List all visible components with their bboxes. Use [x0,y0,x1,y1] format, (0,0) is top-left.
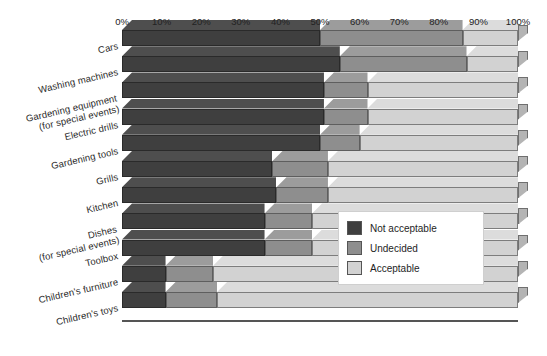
chart-legend: Not acceptable Undecided Acceptable [338,211,484,285]
bar-segment-undecided [324,82,368,98]
bar-segment-not-acceptable [122,213,265,229]
bar-end-cap [518,287,528,303]
bar-segment-not-acceptable [122,82,324,98]
bar-segment-top-face [122,125,320,135]
bar-row [122,161,518,177]
category-label-line1: Cars [97,40,119,55]
bar-end-cap [518,130,528,146]
category-label-line1: Gardening tools [50,145,119,171]
x-axis-line [122,320,518,322]
legend-item: Acceptable [347,258,475,278]
bar-segment-acceptable [328,161,518,177]
bar-end-cap [518,25,528,41]
category-label-line1: Children's furniture [37,276,119,305]
bar-end-cap [518,208,528,224]
bar-end-cap [518,156,528,172]
bar-segment-not-acceptable [122,109,324,125]
legend-swatch-not-acceptable [347,221,362,235]
legend-item: Not acceptable [347,218,475,238]
bar-row [122,82,518,98]
bar-segment-top-face [265,203,313,213]
bar-segment-undecided [265,240,313,256]
x-tick-label: 50% [310,16,329,27]
bar-segment-top-face [324,99,368,109]
x-tick-label: 100% [506,16,530,27]
legend-label-acceptable: Acceptable [370,263,419,274]
bar-segment-acceptable [463,30,518,46]
bar-segment-acceptable [328,187,518,203]
bar-row [122,56,518,72]
bar-segment-top-face [324,72,368,82]
x-tick-label: 0% [115,16,129,27]
bar-segment-undecided [324,109,368,125]
bar-row [122,109,518,125]
bar-segment-undecided [320,135,360,151]
bar-end-cap [518,235,528,251]
category-label-line1: Toolbox [84,250,119,268]
bar-segment-top-face [122,99,324,109]
legend-label-undecided: Undecided [370,243,418,254]
bar-row [122,187,518,203]
x-tick-label: 80% [429,16,448,27]
bar-segment-undecided [166,292,217,308]
bar-segment-top-face [122,203,265,213]
x-tick-label: 40% [271,16,290,27]
bar-segment-not-acceptable [122,161,272,177]
category-label-line1: Grills [95,171,119,187]
bar-segment-top-face [328,151,518,161]
bar-segment-top-face [166,256,214,266]
bar-segment-acceptable [360,135,518,151]
bar-segment-top-face [265,230,313,240]
x-tick-label: 10% [152,16,171,27]
bar-segment-top-face [272,151,327,161]
x-tick-label: 60% [350,16,369,27]
bar-end-cap [518,182,528,198]
legend-item: Undecided [347,238,475,258]
bar-segment-acceptable [368,109,518,125]
category-label-line1: Kitchen [85,197,119,215]
bar-row [122,135,518,151]
bar-segment-top-face [122,282,166,292]
x-tick-label: 70% [390,16,409,27]
bar-end-cap [518,261,528,277]
bar-segment-top-face [122,46,340,56]
bar-segment-undecided [265,213,313,229]
x-tick-label: 20% [192,16,211,27]
bar-segment-acceptable [217,292,518,308]
bar-segment-top-face [368,72,518,82]
legend-swatch-acceptable [347,261,362,275]
bar-row [122,292,518,308]
bar-segment-not-acceptable [122,56,340,72]
bar-segment-top-face [122,230,265,240]
bar-segment-not-acceptable [122,30,320,46]
bar-segment-top-face [320,125,360,135]
legend-swatch-undecided [347,241,362,255]
bar-segment-top-face [166,282,217,292]
category-label-line1: Washing machines [37,66,119,95]
bar-segment-top-face [360,125,518,135]
x-tick-label: 30% [231,16,250,27]
bar-segment-top-face [122,256,166,266]
bar-segment-not-acceptable [122,135,320,151]
category-label-line1: Children's toys [55,302,119,327]
bar-segment-acceptable [467,56,518,72]
bar-end-cap [518,51,528,67]
bar-segment-top-face [368,99,518,109]
bar-segment-top-face [122,72,324,82]
bar-end-cap [518,104,528,120]
bar-segment-top-face [122,177,276,187]
bar-segment-top-face [340,46,467,56]
legend-label-not-acceptable: Not acceptable [370,223,437,234]
bar-segment-top-face [122,151,272,161]
bar-segment-not-acceptable [122,240,265,256]
bar-segment-undecided [166,266,214,282]
bar-segment-acceptable [368,82,518,98]
bar-row [122,30,518,46]
x-tick-label: 90% [469,16,488,27]
bar-segment-not-acceptable [122,187,276,203]
stacked-bar-chart: CarsWashing machinesGardening equipment(… [0,0,547,356]
bar-segment-not-acceptable [122,266,166,282]
bar-end-cap [518,77,528,93]
bar-segment-undecided [340,56,467,72]
bar-segment-undecided [272,161,327,177]
